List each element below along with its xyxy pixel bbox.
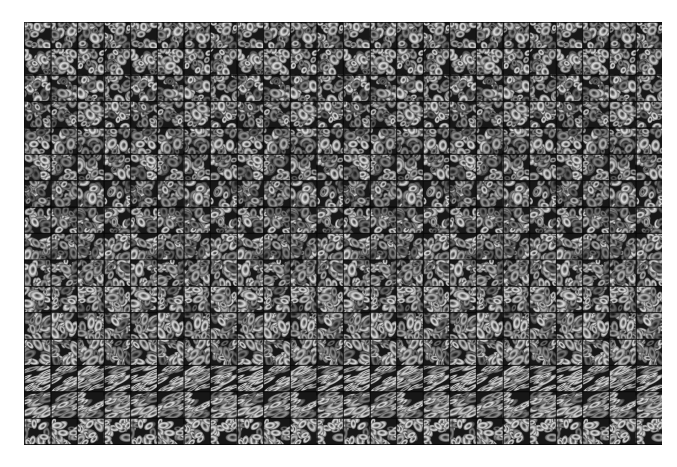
page-root: Grid montage of grayscale fluorescence m… [0,0,677,467]
microscopy-tile-montage[interactable] [24,22,662,445]
montage-canvas[interactable] [24,22,662,445]
